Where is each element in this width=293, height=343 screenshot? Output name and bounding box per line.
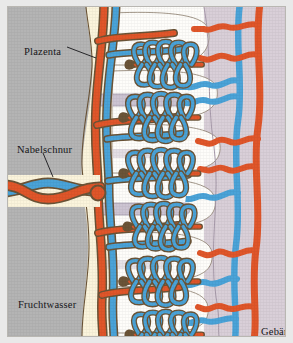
figure-frame: Plazenta Nabelschnur Fruchtwasser Gebär-… [7,6,286,337]
label-gebaermutter-line1: Gebär- [261,326,286,337]
label-plazenta: Plazenta [24,46,61,57]
umbilical-cord [8,175,106,207]
label-nabelschnur: Nabelschnur [17,144,72,155]
figure-page: Plazenta Nabelschnur Fruchtwasser Gebär-… [0,0,293,343]
cord-junction [91,186,106,201]
label-fruchtwasser: Fruchtwasser [18,299,76,310]
label-gebaermutter: Gebär- mutter [261,304,286,337]
spiral-artery [198,306,254,309]
